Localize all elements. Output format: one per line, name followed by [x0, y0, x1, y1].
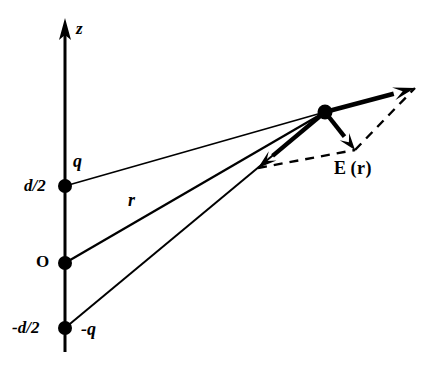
positive-charge-label: q	[73, 152, 82, 170]
z-axis-label: z	[76, 20, 83, 37]
negative-charge-label: -q	[81, 320, 96, 338]
electric-field-label: E(r)	[334, 159, 372, 177]
positive-charge-dot	[58, 179, 72, 193]
diagram-canvas	[0, 0, 427, 372]
resultant-field-vector-shaft	[325, 94, 394, 112]
negative-charge-dot	[58, 321, 72, 335]
negative-charge-coordinate-label: -d/2	[12, 319, 39, 336]
positive-charge-coordinate-label: d/2	[24, 177, 46, 194]
electric-field-symbol: E	[334, 158, 347, 178]
dipole-field-diagram: z q d/2 r O -d/2 -q E(r)	[0, 0, 427, 372]
ray-from-origin	[65, 112, 325, 263]
component-vector-from-negative-charge-shaft	[273, 112, 325, 156]
electric-field-argument: (r)	[351, 158, 372, 178]
origin-label: O	[36, 253, 49, 270]
distance-label: r	[128, 191, 135, 209]
field-point-dot	[318, 105, 333, 120]
resultant-field-vector-arrowhead	[392, 87, 415, 100]
origin-dot	[58, 256, 72, 270]
ray-from-positive-charge	[65, 112, 325, 186]
